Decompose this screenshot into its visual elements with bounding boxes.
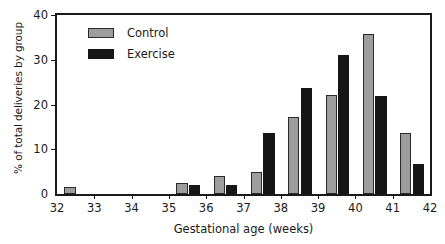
bar-exercise-35 [189, 185, 200, 194]
x-axis-tick-label: 32 [50, 201, 65, 215]
y-axis-tick-mark [51, 149, 57, 150]
y-axis-tick-label: 40 [33, 8, 48, 22]
legend-label: Control [127, 26, 169, 40]
y-axis-tick-mark [51, 105, 57, 106]
legend-item-control: Control [88, 22, 175, 43]
x-axis-tick-mark [281, 194, 282, 199]
x-axis-tick-label: 39 [311, 201, 326, 215]
bar-control-32 [64, 187, 75, 194]
black-filled-rect-icon [88, 49, 114, 59]
bar-control-37 [251, 172, 262, 194]
bar-exercise-41 [413, 164, 424, 194]
x-axis-tick-label: 37 [236, 201, 251, 215]
x-axis-tick-mark [393, 194, 394, 199]
gray-filled-rect-icon [88, 28, 114, 38]
x-axis-tick-mark [206, 194, 207, 199]
bar-control-36 [214, 176, 225, 194]
x-axis-tick-label: 40 [348, 201, 363, 215]
bar-exercise-38 [301, 88, 312, 195]
x-axis-tick-mark [132, 194, 133, 199]
x-axis-title: Gestational age (weeks) [55, 222, 432, 236]
y-axis-tick-label: 20 [33, 98, 48, 112]
x-axis-tick-label: 41 [385, 201, 400, 215]
y-axis-tick-label: 0 [41, 187, 48, 201]
x-axis-tick-mark [244, 194, 245, 199]
x-axis-tick-mark [318, 194, 319, 199]
x-axis-tick-label: 38 [273, 201, 288, 215]
legend-item-exercise: Exercise [88, 43, 175, 64]
y-axis-tick-mark [51, 15, 57, 16]
x-axis-tick-mark [169, 194, 170, 199]
bar-exercise-39 [338, 55, 349, 194]
x-axis-tick-label: 36 [199, 201, 214, 215]
legend-label: Exercise [127, 47, 175, 61]
x-axis-tick-mark [94, 194, 95, 199]
bar-chart-figure: % of total deliveries by group 010203040… [0, 0, 445, 244]
bar-exercise-37 [263, 133, 274, 194]
bar-control-41 [400, 133, 411, 194]
bar-exercise-40 [375, 96, 386, 194]
x-axis-tick-label: 42 [423, 201, 438, 215]
x-axis-tick-label: 34 [124, 201, 139, 215]
bar-control-40 [363, 34, 374, 194]
y-axis-tick-label: 10 [33, 142, 48, 156]
x-axis-tick-mark [355, 194, 356, 199]
x-axis-tick-label: 33 [87, 201, 102, 215]
y-axis-tick-label: 30 [33, 53, 48, 67]
bar-control-39 [326, 95, 337, 194]
x-axis-tick-label: 35 [162, 201, 177, 215]
bar-control-35 [176, 183, 187, 194]
y-axis-tick-mark [51, 60, 57, 61]
bar-control-38 [288, 117, 299, 194]
bar-exercise-36 [226, 185, 237, 194]
y-axis-title: % of total deliveries by group [12, 3, 24, 193]
legend: ControlExercise [88, 22, 175, 64]
